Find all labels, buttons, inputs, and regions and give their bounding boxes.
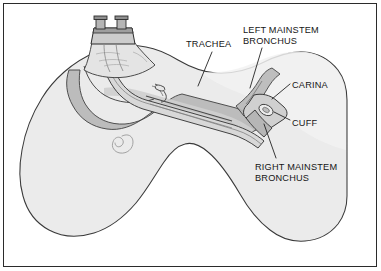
connector-prong-left <box>94 16 107 29</box>
medical-illustration-figure: TRACHEA LEFT MAINSTEMBRONCHUS CARINA CUF… <box>0 0 381 271</box>
label-right-mainstem-bronchus: RIGHT MAINSTEMBRONCHUS <box>255 162 337 183</box>
label-right-mainstem-line1: RIGHT MAINSTEM <box>255 162 337 172</box>
label-right-mainstem-line2: BRONCHUS <box>255 173 309 183</box>
label-left-mainstem-line2: BRONCHUS <box>243 36 297 46</box>
label-left-mainstem-bronchus: LEFT MAINSTEMBRONCHUS <box>243 25 319 46</box>
label-carina: CARINA <box>292 80 328 91</box>
connector-prong-right <box>115 16 128 29</box>
label-cuff: CUFF <box>292 118 317 129</box>
label-left-mainstem-line1: LEFT MAINSTEM <box>243 25 319 35</box>
label-trachea: TRACHEA <box>186 39 231 50</box>
